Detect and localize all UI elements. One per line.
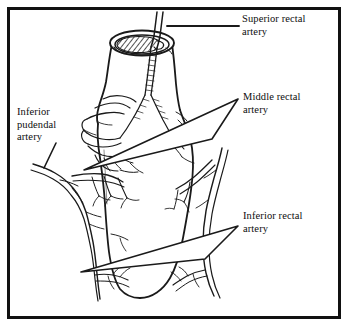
label-superior-rectal-artery: Superior rectal artery — [242, 13, 306, 38]
inferior-rectal-leader — [81, 226, 238, 272]
inferior-pudendal-artery-vessel — [31, 164, 104, 301]
anatomical-illustration — [0, 0, 348, 326]
inferior-pudendal-leader — [44, 143, 56, 168]
middle-rectal-leader — [84, 99, 238, 170]
label-inferior-rectal-artery: Inferior rectal artery — [243, 210, 303, 235]
label-middle-rectal-artery: Middle rectal artery — [243, 91, 301, 116]
rectum-cut-end — [110, 31, 174, 56]
label-inferior-pudendal-artery: Inferior pudendal artery — [17, 106, 56, 144]
figure-root: Superior rectal artery Middle rectal art… — [0, 0, 348, 326]
rectal-lumen-hatching — [117, 37, 161, 53]
